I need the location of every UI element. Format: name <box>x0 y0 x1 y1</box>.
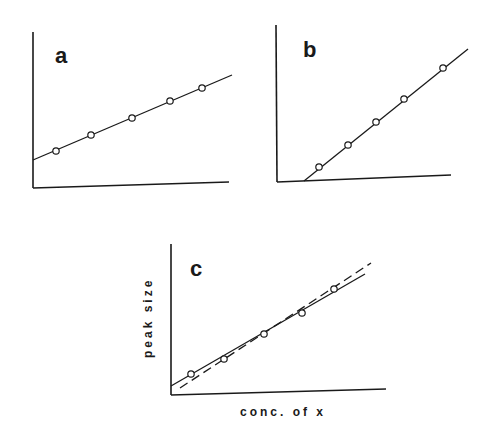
panel-a-data-point <box>167 98 173 104</box>
panel-c-x-axis <box>171 389 386 395</box>
panel-a-data-point <box>88 132 94 138</box>
panel-c-x-axis-label: conc. of x <box>240 405 326 419</box>
panel-c-data-point <box>188 371 194 377</box>
panel-b-data-point <box>401 96 407 102</box>
panel-c-data-point <box>331 286 337 292</box>
panel-b: b <box>276 25 468 182</box>
panel-b-data-point <box>316 164 322 170</box>
panel-c-data-point <box>221 356 227 362</box>
panel-c: c conc. of x peak size <box>141 244 386 419</box>
panel-b-data-point <box>345 142 351 148</box>
panel-a-data-point <box>129 115 135 121</box>
panel-c-label: c <box>190 256 202 281</box>
panel-b-y-axis <box>276 25 277 182</box>
panel-a-label: a <box>55 43 68 68</box>
panel-a-data-point <box>53 148 59 154</box>
panel-c-data-point <box>261 331 267 337</box>
panel-a-data-point <box>199 85 205 91</box>
panel-b-x-axis <box>277 175 451 182</box>
panel-c-y-axis-label: peak size <box>141 278 155 358</box>
figure-canvas: a b c conc. of x peak size <box>0 0 490 442</box>
panel-a: a <box>33 32 232 188</box>
panel-c-fit-line-dashed <box>180 263 371 388</box>
panel-c-data-point <box>299 310 305 316</box>
panel-a-x-axis <box>33 182 229 188</box>
panel-b-label: b <box>303 37 316 62</box>
panel-b-data-point <box>440 65 446 71</box>
panel-b-data-point <box>373 119 379 125</box>
